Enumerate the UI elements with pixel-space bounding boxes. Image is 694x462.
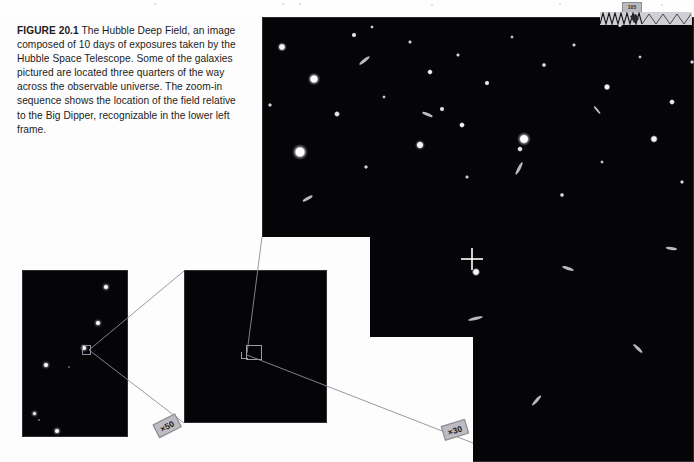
big-dipper-panel	[22, 270, 128, 437]
dipper-star	[33, 412, 36, 415]
dipper-star	[55, 429, 59, 433]
scan-artifact-tag-text: 105	[623, 3, 641, 11]
magnification-label-dipper-to-middle: ×50	[153, 414, 182, 439]
field-location-box	[246, 345, 262, 360]
foreground-star-with-spikes	[461, 258, 483, 260]
dipper-star	[96, 321, 100, 325]
figure-caption-text: The Hubble Deep Field, an image composed…	[17, 25, 236, 135]
intermediate-zoom-panel	[184, 270, 327, 423]
scan-artifact: 105	[600, 2, 692, 26]
scan-noise-strip	[0, 0, 694, 12]
scan-artifact-zigzag	[600, 12, 692, 25]
field-location-marker	[82, 345, 91, 355]
dipper-faint-star	[38, 419, 40, 421]
dipper-star	[44, 363, 48, 367]
dipper-star	[104, 285, 108, 289]
dipper-faint-star	[68, 366, 70, 368]
magnification-label-middle-to-main: ×30	[441, 419, 469, 441]
field-location-box-step	[241, 352, 248, 359]
figure-label: FIGURE 20.1	[17, 25, 79, 36]
figure-page: FIGURE 20.1 The Hubble Deep Field, an im…	[0, 0, 694, 462]
figure-caption: FIGURE 20.1 The Hubble Deep Field, an im…	[17, 24, 245, 137]
